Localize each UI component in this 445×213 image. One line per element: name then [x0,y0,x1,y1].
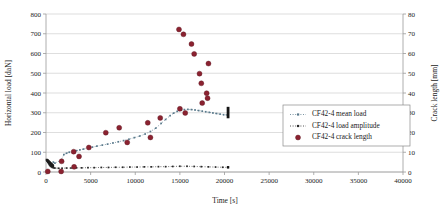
chart-figure: 0100200300400500600700800010203040506070… [0,0,445,213]
data-point [165,119,167,121]
data-point [145,120,150,125]
data-point [177,106,182,111]
data-point [134,137,136,139]
legend-item-label: CF42-4 mean load [312,109,367,118]
data-point [169,115,171,117]
legend-marker-circle-icon [296,135,301,140]
data-point [181,32,186,37]
data-point [45,169,50,174]
data-point [198,110,200,112]
data-point [58,167,60,169]
data-point [158,166,160,168]
data-point [101,144,103,146]
data-point [187,109,189,111]
data-point [125,140,130,145]
y-tick-label-left: 200 [31,129,42,137]
data-point [96,145,98,147]
data-point [223,114,225,116]
y-axis-title-left: Horizontal load [daN] [4,60,13,126]
data-point [139,135,141,137]
y-tick-label-right: 80 [408,11,416,19]
data-point [81,167,83,169]
data-point [123,140,125,142]
data-point [54,167,56,169]
y-tick-label-right: 60 [408,50,416,58]
x-tick-label: 40000 [394,177,412,185]
data-point [63,154,65,156]
gridlines [46,14,403,172]
data-point [93,167,95,169]
data-point [150,166,152,168]
data-point [173,112,175,114]
y-tick-label-left: 400 [31,90,42,98]
data-point [115,166,117,168]
data-point [189,42,194,47]
data-point [83,148,85,150]
data-point [54,162,56,164]
x-tick-label: 30000 [305,177,323,185]
data-point [103,130,108,135]
data-point [172,166,174,168]
data-point [92,146,94,148]
data-point [136,166,138,168]
data-point [194,109,196,111]
x-axis-title: Time [s] [212,196,237,205]
data-point [165,166,167,168]
data-point [205,96,210,101]
x-tick-label: 20000 [216,177,234,185]
y-tick-label-right: 10 [408,149,416,157]
data-point [107,143,109,145]
chart-legend: CF42-4 mean loadCF42-4 load amplitudeCF4… [283,105,410,146]
data-point [191,109,193,111]
data-point [212,112,214,114]
data-point [112,142,114,144]
legend-item-label: CF42-4 load amplitude [312,121,380,130]
data-point [68,151,70,153]
data-series [45,27,229,174]
data-point [143,166,145,168]
data-point [216,113,218,115]
data-point [183,109,185,111]
end-marker-bar [227,107,230,118]
y-tick-label-left: 600 [31,50,42,58]
y-tick-label-left: 500 [31,70,42,78]
legend-item-label: CF42-4 crack length [312,132,372,141]
data-point [200,101,205,106]
tick-labels: 0100200300400500600700800010203040506070… [31,11,416,186]
data-point [52,161,54,163]
data-point [59,169,64,174]
data-point [129,166,131,168]
data-point [183,110,188,115]
y-tick-label-left: 800 [31,11,42,19]
data-point [176,27,181,32]
data-point [108,167,110,169]
x-tick-label: 0 [44,177,48,185]
data-point [59,159,64,164]
data-point [199,81,204,86]
data-point [201,110,203,112]
x-tick-label: 25000 [260,177,278,185]
data-point [208,112,210,114]
data-point [77,154,82,159]
data-point [150,131,152,133]
data-point [179,165,181,167]
chart-canvas: 0100200300400500600700800010203040506070… [0,0,445,213]
data-point [100,167,102,169]
y-tick-label-right: 50 [408,70,416,78]
data-point [222,166,224,168]
data-point [215,166,217,168]
data-point [205,111,207,113]
data-point [155,127,157,129]
data-point [219,113,221,115]
series-cf42-4-mean-load [46,109,228,168]
x-tick-label: 10000 [127,177,145,185]
y-tick-label-right: 70 [408,30,416,38]
y-tick-label-right: 0 [408,169,412,177]
data-point [71,149,76,154]
data-point [197,71,202,76]
y-tick-label-left: 700 [31,30,42,38]
data-point [87,167,89,169]
y-tick-label-right: 40 [408,90,416,98]
data-point [186,165,188,167]
data-point [117,141,119,143]
